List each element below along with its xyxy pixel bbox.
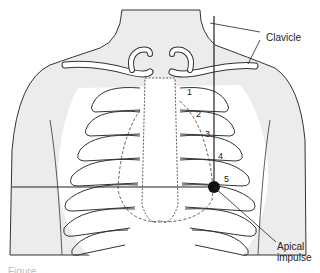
intercostal-space-5: 5 <box>224 174 229 184</box>
intercostal-space-1: 1 <box>187 87 192 97</box>
apical-impulse-label-line1: Apical <box>277 241 304 252</box>
apical-impulse-label-line2: impulse <box>277 252 311 263</box>
clavicle-leader-line <box>210 23 260 32</box>
intercostal-space-4: 4 <box>218 151 223 161</box>
intercostal-space-3: 3 <box>205 129 210 139</box>
sternum <box>142 78 178 222</box>
clavicle-label: Clavicle <box>266 32 301 43</box>
intercostal-space-2: 2 <box>196 109 201 119</box>
figure-caption-fragment: Figure <box>8 266 36 273</box>
